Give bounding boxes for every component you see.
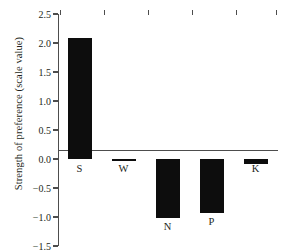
x-axis-tick bbox=[148, 10, 149, 15]
y-axis-tick-label: 1.0 bbox=[39, 96, 52, 107]
y-axis-tick bbox=[53, 71, 58, 72]
y-axis-title: Strength of preference (scale value) bbox=[13, 14, 24, 214]
bar-s bbox=[68, 38, 92, 159]
x-axis-tick bbox=[104, 10, 105, 15]
y-axis-tick bbox=[53, 245, 58, 246]
y-axis-tick-label: −1.0 bbox=[33, 212, 51, 223]
y-axis-line bbox=[58, 14, 59, 246]
y-axis-tick bbox=[53, 216, 58, 217]
y-axis-tick bbox=[53, 13, 58, 14]
y-axis-tick bbox=[53, 42, 58, 43]
x-axis-category-label: N bbox=[164, 221, 172, 232]
x-axis-tick bbox=[192, 10, 193, 15]
x-axis-tick bbox=[60, 10, 61, 15]
y-axis-tick bbox=[53, 158, 58, 159]
x-axis-tick bbox=[276, 10, 277, 15]
y-axis-tick-label: 0.0 bbox=[39, 154, 52, 165]
bar-w bbox=[112, 159, 136, 161]
x-axis-category-label: S bbox=[77, 163, 83, 174]
plot-area: 2.52.01.51.00.50.0−0.5−1.0−1.5SWNPK bbox=[58, 14, 278, 246]
y-axis-tick-label: 1.5 bbox=[39, 67, 52, 78]
bar-p bbox=[200, 159, 224, 213]
bar-n bbox=[156, 159, 180, 218]
y-axis-tick bbox=[53, 129, 58, 130]
x-axis-category-label: W bbox=[119, 163, 129, 174]
y-axis-tick bbox=[53, 100, 58, 101]
bar-chart-figure: Strength of preference (scale value) 2.5… bbox=[0, 0, 294, 252]
y-axis-tick-label: −1.5 bbox=[33, 241, 51, 252]
y-axis-tick bbox=[53, 187, 58, 188]
y-axis-tick-label: 2.5 bbox=[39, 9, 52, 20]
x-axis-tick bbox=[236, 10, 237, 15]
y-axis-tick-label: 0.5 bbox=[39, 125, 52, 136]
x-axis-category-label: K bbox=[252, 163, 260, 174]
y-axis-tick-label: −0.5 bbox=[33, 183, 51, 194]
y-axis-tick-label: 2.0 bbox=[39, 38, 52, 49]
x-axis-category-label: P bbox=[209, 216, 215, 227]
